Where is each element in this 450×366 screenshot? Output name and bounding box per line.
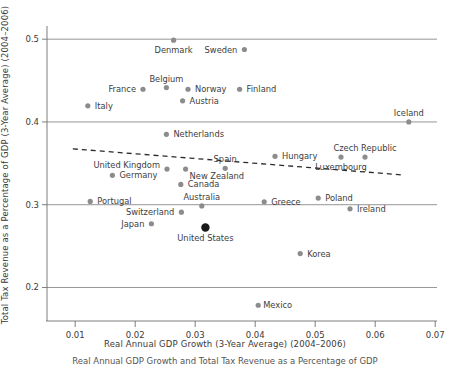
data-point-netherlands[interactable] [164,132,169,137]
data-point-germany[interactable] [110,173,115,178]
ytick-label-0.3: 0.3 [25,200,39,210]
y-axis-label: Total Tax Revenue as a Percentage of GDP… [0,0,10,330]
data-point-united-states[interactable] [201,223,209,231]
point-label-hungary: Hungary [282,151,318,161]
data-point-austria[interactable] [180,98,185,103]
data-point-czech-republic[interactable] [362,155,367,160]
point-label-korea: Korea [307,249,331,259]
data-point-denmark[interactable] [171,38,176,43]
point-label-czech-republic: Czech Republic [333,143,397,153]
point-label-united-states: United States [177,233,233,243]
data-point-sweden[interactable] [242,47,247,52]
data-point-belgium[interactable] [164,85,169,90]
ytick-label-0.4: 0.4 [25,117,39,127]
data-point-japan[interactable] [149,221,154,226]
data-point-spain[interactable] [223,166,228,171]
point-label-ireland: Ireland [357,204,386,214]
point-label-switzerland: Switzerland [126,207,174,217]
point-label-netherlands: Netherlands [173,129,224,139]
point-label-finland: Finland [247,84,277,94]
point-label-denmark: Denmark [155,45,193,55]
point-label-greece: Greece [271,197,301,207]
point-label-japan: Japan [120,219,144,229]
point-label-mexico: Mexico [263,300,292,310]
data-point-switzerland[interactable] [179,210,184,215]
data-point-france[interactable] [140,87,145,92]
data-point-united-kingdom[interactable] [164,167,169,172]
data-point-iceland[interactable] [406,119,411,124]
data-point-norway[interactable] [185,87,190,92]
point-label-iceland: Iceland [394,108,424,118]
data-point-luxembourg[interactable] [338,155,343,160]
data-point-greece[interactable] [262,199,267,204]
point-label-luxembourg: Luxembourg [315,162,367,172]
ytick-label-0.2: 0.2 [25,282,39,292]
ticks-group: 0.20.30.40.50.010.020.030.040.050.060.07 [25,34,444,340]
data-point-finland[interactable] [237,87,242,92]
point-label-belgium: Belgium [149,74,183,84]
data-point-poland[interactable] [316,195,321,200]
data-point-new-zealand[interactable] [183,167,188,172]
point-label-spain: Spain [214,154,237,164]
figure-caption: Real Annual GDP Growth and Total Tax Rev… [0,356,450,366]
data-point-italy[interactable] [85,103,90,108]
point-label-france: France [108,84,136,94]
point-label-poland: Poland [325,193,353,203]
data-point-portugal[interactable] [88,199,93,204]
point-label-germany: Germany [119,170,157,180]
data-point-canada[interactable] [178,182,183,187]
ytick-label-0.5: 0.5 [25,34,39,44]
data-point-ireland[interactable] [347,206,352,211]
data-point-korea[interactable] [298,251,303,256]
point-label-australia: Australia [183,192,220,202]
point-label-canada: Canada [188,179,220,189]
point-label-united-kingdom: United Kingdom [93,160,160,170]
point-label-austria: Austria [190,96,219,106]
point-label-sweden: Sweden [205,45,238,55]
data-point-mexico[interactable] [256,303,261,308]
point-labels-group: DenmarkSwedenBelgiumFranceNorwayFinlandA… [93,45,423,311]
data-point-hungary[interactable] [272,154,277,159]
x-axis-label: Real Annual GDP Growth (3-Year Average) … [0,339,450,349]
point-label-portugal: Portugal [97,196,131,206]
point-label-italy: Italy [95,101,113,111]
data-point-australia[interactable] [199,203,204,208]
point-label-norway: Norway [195,84,227,94]
